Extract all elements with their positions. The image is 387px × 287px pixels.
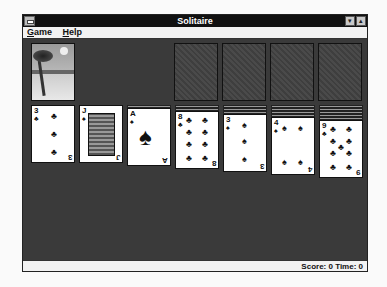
card-rank: 4 (274, 119, 278, 127)
spade-icon: ♠ (82, 115, 86, 122)
club-icon: ♣ (330, 163, 336, 172)
spade-icon: ♠ (274, 127, 278, 134)
palm-leaves-icon (33, 50, 53, 62)
club-icon: ♣ (330, 125, 336, 134)
game-table: 3 ♣ ♣ ♣ ♣ 3 J ♠ J A ♠ ♠ A 8 ♣ ♣ ♣ (23, 39, 367, 261)
maximize-button[interactable]: ▴ (356, 16, 366, 26)
club-icon: ♣ (330, 149, 336, 158)
foundation-3[interactable] (270, 43, 314, 101)
spade-icon: ♠ (282, 158, 287, 167)
club-icon: ♣ (34, 115, 39, 122)
club-icon: ♣ (346, 137, 352, 146)
spade-icon: ♠ (226, 124, 230, 131)
menu-bar: Game Help (23, 27, 367, 39)
card-rank: 8 (212, 159, 216, 167)
club-icon: ♣ (186, 116, 192, 125)
club-icon: ♣ (202, 128, 208, 137)
spade-icon: ♠ (282, 124, 287, 133)
tableau-card-4[interactable]: 8 ♣ ♣ ♣ ♣ ♣ ♣ ♣ ♣ ♣ 8 (175, 111, 219, 169)
card-rank: 9 (356, 168, 360, 176)
card-rank: 3 (260, 162, 264, 170)
card-rank: J (82, 107, 86, 115)
foundation-2[interactable] (222, 43, 266, 101)
status-bar: Score: 0 Time: 0 (23, 260, 367, 271)
club-icon: ♣ (51, 130, 57, 139)
menu-help[interactable]: Help (59, 27, 87, 38)
club-icon: ♣ (178, 121, 183, 128)
card-rank: 3 (34, 107, 38, 115)
solitaire-window: Solitaire ▾ ▴ Game Help 3 ♣ ♣ ♣ ♣ 3 (22, 14, 368, 272)
spade-icon: ♠ (242, 121, 247, 130)
foundation-1[interactable] (174, 43, 218, 101)
tableau-card-5[interactable]: 3 ♠ ♠ ♠ ♠ 3 (223, 114, 267, 172)
spade-icon: ♠ (130, 118, 134, 125)
club-icon: ♣ (346, 149, 352, 158)
tableau-card-7[interactable]: 9 ♣ ♣ ♣ ♣ ♣ ♣ ♣ ♣ ♣ ♣ 9 (319, 120, 363, 178)
club-icon: ♣ (186, 154, 192, 163)
club-icon: ♣ (346, 125, 352, 134)
sun-icon (60, 47, 68, 55)
title-bar[interactable]: Solitaire ▾ ▴ (23, 15, 367, 27)
spade-icon: ♠ (139, 125, 152, 149)
card-rank: 9 (322, 122, 326, 130)
club-icon: ♣ (330, 137, 336, 146)
club-icon: ♣ (51, 148, 57, 157)
foundation-4[interactable] (318, 43, 362, 101)
tableau-card-6[interactable]: 4 ♠ ♠ ♠ ♠ ♠ 4 (271, 117, 315, 175)
club-icon: ♣ (51, 112, 57, 121)
spade-icon: ♠ (298, 124, 303, 133)
spade-icon: ♠ (242, 137, 247, 146)
club-icon: ♣ (202, 116, 208, 125)
club-icon: ♣ (202, 140, 208, 149)
tableau-card-1[interactable]: 3 ♣ ♣ ♣ ♣ 3 (31, 105, 75, 163)
card-rank: 3 (68, 153, 72, 161)
club-icon: ♣ (346, 163, 352, 172)
tableau-card-2[interactable]: J ♠ J (79, 105, 123, 163)
jack-face-icon (88, 113, 115, 156)
card-rank: 4 (308, 165, 312, 173)
card-rank: 3 (226, 116, 230, 124)
card-rank: A (130, 110, 136, 118)
palm-tree-icon (37, 58, 45, 96)
club-icon: ♣ (186, 140, 192, 149)
menu-game[interactable]: Game (23, 27, 56, 38)
spade-icon: ♠ (298, 158, 303, 167)
window-title: Solitaire (23, 15, 367, 27)
club-icon: ♣ (322, 130, 327, 137)
minimize-button[interactable]: ▾ (345, 16, 355, 26)
club-icon: ♣ (338, 143, 344, 152)
card-rank: J (116, 153, 120, 161)
card-rank: 8 (178, 113, 182, 121)
card-rank: A (162, 156, 168, 164)
spade-icon: ♠ (242, 155, 247, 164)
club-icon: ♣ (202, 154, 208, 163)
club-icon: ♣ (186, 128, 192, 137)
tableau-card-3[interactable]: A ♠ ♠ A (127, 108, 171, 166)
stock-pile[interactable] (31, 43, 75, 101)
